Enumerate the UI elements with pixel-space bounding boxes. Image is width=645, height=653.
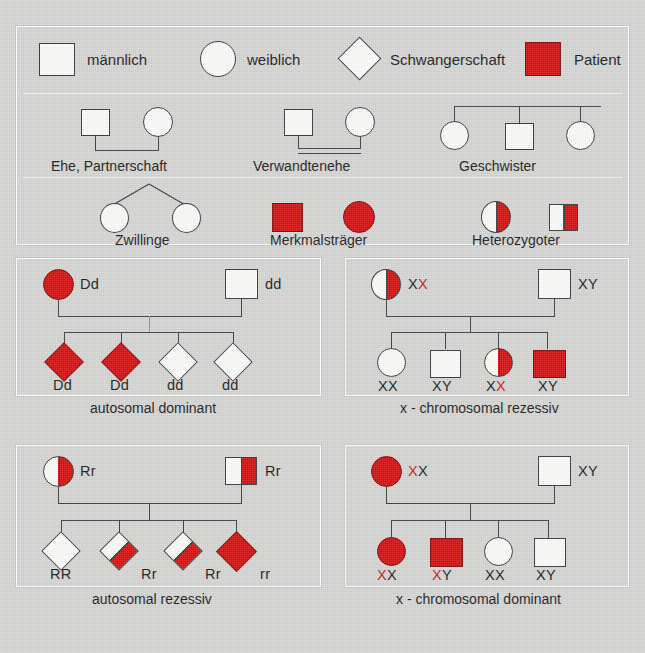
- legend-marriage-drop-left: [95, 136, 96, 151]
- child-drop-2: [445, 520, 446, 538]
- descent-line: [470, 316, 471, 333]
- legend-consanguineous-label: Verwandtenehe: [253, 158, 350, 174]
- child-square-2: [430, 350, 461, 378]
- legend-twin-circle-1-icon: [100, 203, 129, 233]
- descent-line: [149, 316, 150, 333]
- sibship-line: [61, 520, 237, 521]
- child-1-genotype: XX: [377, 567, 397, 583]
- legend-affected-circle-icon: [343, 201, 375, 233]
- legend-marriage-label: Ehe, Partnerschaft: [51, 158, 167, 174]
- panel-x-chromosomal-dominant: XX XY XX XY XX XY: [345, 445, 629, 587]
- legend-carrier-circle-icon: [481, 201, 511, 233]
- child-3-genotype: Rr: [205, 566, 221, 582]
- legend-marriage-drop-right: [158, 137, 159, 151]
- child1-allele-2: X: [387, 567, 397, 583]
- parent-mother-circle: [371, 269, 401, 300]
- child-diamond-1: [44, 342, 84, 382]
- parent-father-genotype: XY: [578, 463, 598, 479]
- mother-drop-line: [386, 300, 387, 317]
- child-circle-3: [484, 537, 513, 566]
- child-diamond-3: [158, 342, 198, 382]
- child-circle-1: [377, 348, 406, 377]
- mother-allele-2: X: [418, 276, 428, 292]
- parent-mother-genotype: Rr: [80, 463, 96, 479]
- child-diamond-2: [101, 342, 141, 382]
- sibship-line: [391, 520, 549, 521]
- legend-female-label: weiblich: [247, 51, 300, 68]
- caption-autosomal-dominant: autosomal dominant: [90, 400, 216, 416]
- child-square-4: [533, 350, 566, 378]
- legend-affected-label: Merkmalsträger: [270, 232, 367, 248]
- caption-autosomal-rezessiv: autosomal rezessiv: [92, 591, 212, 607]
- child-4-genotype: dd: [222, 377, 239, 393]
- legend-marriage-female-icon: [143, 107, 173, 137]
- child3-allele-2: X: [496, 378, 506, 394]
- legend-twin-circle-2-icon: [172, 203, 201, 233]
- child2-allele-2: Y: [442, 567, 452, 583]
- parent-father-genotype: Rr: [265, 463, 281, 479]
- legend-consang-line-upper: [298, 148, 361, 149]
- legend-consanguineous-female-icon: [345, 107, 375, 137]
- legend-consanguineous-male-icon: [284, 109, 313, 136]
- legend-pregnancy-diamond-icon: [338, 37, 382, 81]
- legend-sibling-circle-2-icon: [566, 121, 595, 150]
- legend-twins-label: Zwillinge: [115, 232, 169, 248]
- child-diamond-4: [216, 531, 257, 572]
- legend-sibling-circle-1-icon: [440, 121, 469, 150]
- legend-carrier-square-icon: [549, 204, 578, 231]
- mother-drop-line: [386, 487, 387, 504]
- legend-consang-line-lower: [298, 153, 361, 154]
- child-4-genotype: XY: [536, 567, 556, 583]
- descent-line: [470, 503, 471, 521]
- child-square-4: [534, 538, 566, 567]
- child-4-genotype: XY: [538, 378, 558, 394]
- panel-autosomal-dominant: Dd dd Dd Dd dd dd: [16, 258, 321, 396]
- child-circle-1: [377, 537, 406, 566]
- parent-mother-circle: [371, 456, 402, 487]
- child-diamond-2: [99, 531, 139, 571]
- legend-sibship-drop-1: [454, 106, 455, 122]
- legend-male-square-icon: [39, 43, 75, 76]
- child-1-genotype: RR: [50, 566, 72, 582]
- child1-allele-1: X: [377, 567, 387, 583]
- legend-sibship-drop-2: [519, 106, 520, 123]
- child-3-genotype: dd: [167, 377, 184, 393]
- father-drop-line: [241, 485, 242, 504]
- child-3-genotype: XX: [485, 567, 505, 583]
- child-drop-3: [498, 520, 499, 538]
- child-drop-2: [445, 332, 446, 349]
- parent-mother-circle: [43, 456, 74, 487]
- legend-male-label: männlich: [87, 51, 147, 68]
- panel-autosomal-rezessiv: Rr Rr RR Rr Rr rr: [16, 445, 321, 587]
- legend-carrier-label: Heterozygoter: [472, 232, 560, 248]
- child-drop-1: [391, 332, 392, 349]
- legend-box: männlich weiblich Schwangerschaft Patien…: [16, 26, 629, 245]
- panel-x-chromosomal-rezessiv: XX XY XX XY XX XY: [345, 258, 629, 396]
- legend-female-circle-icon: [200, 41, 236, 77]
- mother-allele-1: X: [408, 463, 418, 479]
- parent-mother-circle: [43, 269, 74, 300]
- parent-father-genotype: dd: [265, 276, 282, 292]
- father-drop-line: [241, 299, 242, 317]
- figure-sheet: männlich weiblich Schwangerschaft Patien…: [0, 0, 645, 653]
- parent-father-genotype: XY: [578, 276, 598, 292]
- child-diamond-3: [163, 531, 203, 571]
- descent-line: [149, 503, 150, 521]
- child-drop-3: [498, 332, 499, 349]
- child-2-genotype: XY: [432, 378, 452, 394]
- mother-allele-2: X: [418, 463, 428, 479]
- father-drop-line: [554, 486, 555, 504]
- mother-drop-line: [58, 300, 59, 317]
- caption-x-chromosomal-rezessiv: x - chromosomal rezessiv: [400, 400, 559, 416]
- sibship-line: [64, 332, 234, 333]
- legend-pregnancy-label: Schwangerschaft: [390, 51, 505, 68]
- child-3-genotype: XX: [486, 378, 506, 394]
- child-diamond-1: [41, 531, 81, 571]
- child-2-genotype: Dd: [110, 377, 129, 393]
- child2-allele-1: X: [432, 567, 442, 583]
- child-2-genotype: Rr: [141, 566, 157, 582]
- legend-patient-square-icon: [525, 42, 561, 76]
- child-square-2: [430, 538, 463, 567]
- sibship-line: [391, 332, 548, 333]
- legend-sibship-line: [454, 106, 601, 107]
